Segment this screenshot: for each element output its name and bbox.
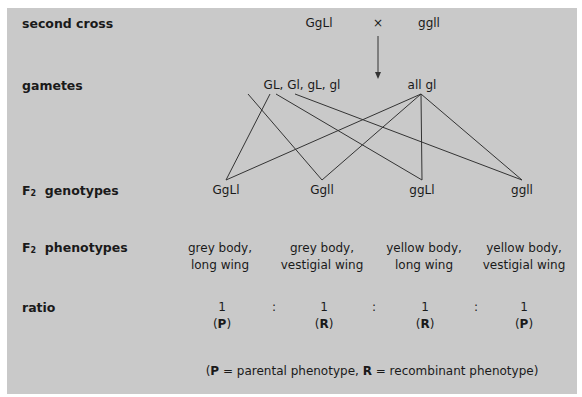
ratio-value-2: 1 <box>320 300 328 314</box>
cross-symbol: × <box>373 16 383 30</box>
phenotype-3: yellow body,long wing <box>386 240 462 274</box>
ratio-separator: : <box>372 300 376 314</box>
ratio-value-4: 1 <box>520 300 528 314</box>
ratio-separator: : <box>272 300 276 314</box>
label-second-cross: second cross <box>22 16 113 31</box>
ratio-value-3: 1 <box>421 300 429 314</box>
arrow-head-icon <box>375 72 381 79</box>
label-f2-phenotypes: F2 phenotypes <box>22 240 128 255</box>
ratio-type-1: (P) <box>213 317 231 331</box>
ratio-value-1: 1 <box>218 300 226 314</box>
genotype-3: ggLl <box>409 183 434 197</box>
parent1-genotype: GgLl <box>306 16 333 30</box>
label-f2-genotypes: F2 genotypes <box>22 183 119 198</box>
ratio-type-4: (P) <box>515 317 533 331</box>
parent1-gametes: GL, Gl, gL, gl <box>264 78 341 92</box>
legend-note: (P = parental phenotype, R = recombinant… <box>206 364 539 378</box>
ratio-type-3: (R) <box>416 317 435 331</box>
phenotype-4: yellow body,vestigial wing <box>483 240 566 274</box>
ratio-separator: : <box>474 300 478 314</box>
label-gametes: gametes <box>22 78 83 93</box>
genotype-1: GgLl <box>213 183 240 197</box>
ratio-type-2: (R) <box>315 317 334 331</box>
genotype-4: ggll <box>511 183 533 197</box>
parent2-gametes: all gl <box>408 78 437 92</box>
phenotype-2: grey body,vestigial wing <box>281 240 364 274</box>
genotype-2: Ggll <box>310 183 334 197</box>
phenotype-1: grey body,long wing <box>188 240 252 274</box>
cross-lines <box>0 0 582 397</box>
label-ratio: ratio <box>22 300 55 315</box>
parent2-genotype: ggll <box>418 16 440 30</box>
